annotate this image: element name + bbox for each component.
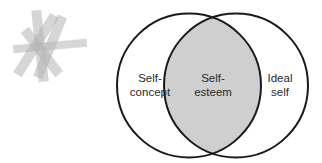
ideal-self-label: Ideal self xyxy=(245,71,315,99)
label-line: Self- xyxy=(115,71,185,85)
self-concept-label: Self- concept xyxy=(115,71,185,99)
self-esteem-label: Self- esteem xyxy=(178,71,248,99)
label-line: esteem xyxy=(178,85,248,99)
label-line: concept xyxy=(115,85,185,99)
label-line: self xyxy=(245,85,315,99)
label-line: Self- xyxy=(178,71,248,85)
label-line: Ideal xyxy=(245,71,315,85)
